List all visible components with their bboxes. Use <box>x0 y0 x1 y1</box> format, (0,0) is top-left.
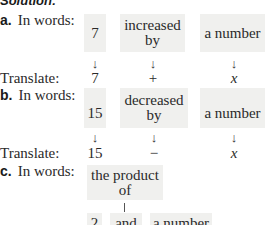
part-c-in-words-label: c.In words: <box>0 163 75 180</box>
part-c-box-variable: a number <box>150 213 212 225</box>
part-c-letter: c. <box>0 163 12 179</box>
box-text: and <box>115 216 137 225</box>
part-a-translation-operator: + <box>143 70 163 87</box>
box-text: a number <box>153 216 209 225</box>
part-a-box-number: 7 <box>84 14 106 52</box>
part-b-translate-label: Translate: <box>0 145 59 162</box>
part-c-box-product: the product of <box>87 165 163 200</box>
part-c-box-factor-2: 2 <box>87 213 102 225</box>
box-text: a number <box>204 26 260 41</box>
box-text-line2: by <box>145 33 160 48</box>
part-b-letter: b. <box>0 87 12 103</box>
in-words-text: In words: <box>18 12 75 28</box>
down-arrow-icon: ↓ <box>229 131 239 144</box>
box-text-line1: increased <box>124 18 181 33</box>
part-b-box-operation: decreased by <box>120 88 188 128</box>
part-a-letter: a. <box>0 12 12 28</box>
box-text-line2: by <box>147 108 162 123</box>
part-a-translation-number: 7 <box>85 70 105 87</box>
part-b-translation-operator: − <box>144 145 164 162</box>
part-a-translate-label: Translate: <box>0 70 59 87</box>
connector-line <box>124 203 125 212</box>
part-b-box-variable: a number <box>200 88 265 128</box>
box-text-line2: of <box>119 183 132 198</box>
box-text-line1: the product <box>91 168 159 183</box>
down-arrow-icon: ↓ <box>148 57 158 70</box>
part-b-in-words-label: b.In words: <box>0 87 76 104</box>
solution-heading: Solution: <box>0 0 56 8</box>
part-a-box-operation: increased by <box>120 14 185 52</box>
part-a-in-words-label: a.In words: <box>0 12 75 29</box>
box-text: 7 <box>91 26 99 41</box>
in-words-text: In words: <box>18 163 75 179</box>
part-a-translation-variable: x <box>224 70 244 87</box>
part-b-translation-number: 15 <box>84 145 106 162</box>
part-b-translation-variable: x <box>224 145 244 162</box>
part-c-box-and: and <box>110 213 142 225</box>
down-arrow-icon: ↓ <box>90 57 100 70</box>
box-text: a number <box>204 106 260 121</box>
box-text-line1: decreased <box>124 93 183 108</box>
part-b-box-number: 15 <box>84 88 106 128</box>
down-arrow-icon: ↓ <box>229 57 239 70</box>
box-text: 15 <box>88 106 103 121</box>
down-arrow-icon: ↓ <box>90 131 100 144</box>
part-a-box-variable: a number <box>200 14 265 52</box>
in-words-text: In words: <box>18 87 75 103</box>
box-text: 2 <box>91 216 99 225</box>
down-arrow-icon: ↓ <box>149 131 159 144</box>
